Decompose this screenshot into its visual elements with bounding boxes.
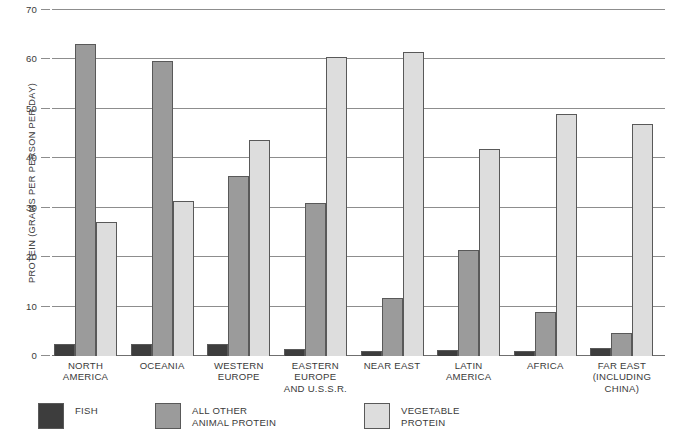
bar — [590, 348, 611, 356]
bar — [228, 176, 249, 356]
y-tick-label-20: 20 — [11, 251, 37, 262]
bar-group — [514, 10, 577, 356]
bar — [556, 114, 577, 356]
bar — [326, 57, 347, 356]
legend-label: FISH — [75, 403, 98, 417]
bar — [96, 222, 117, 356]
y-tick-mark-70 — [41, 9, 50, 10]
bar — [75, 44, 96, 356]
bar — [207, 344, 228, 356]
bar — [458, 250, 479, 356]
y-tick-mark-30 — [41, 207, 50, 208]
bar-group — [590, 10, 653, 356]
legend-swatch — [38, 403, 64, 429]
bars-layer — [52, 10, 665, 356]
bar — [131, 344, 152, 356]
y-tick-label-50: 50 — [11, 102, 37, 113]
chart-legend: FISHALL OTHERANIMAL PROTEINVEGETABLEPROT… — [38, 403, 658, 443]
y-tick-label-0: 0 — [11, 350, 37, 361]
y-tick-label-40: 40 — [11, 152, 37, 163]
plot-area: 010203040506070 — [52, 10, 665, 356]
bar — [382, 298, 403, 356]
y-tick-mark-20 — [41, 256, 50, 257]
legend-label: ALL OTHERANIMAL PROTEIN — [192, 403, 276, 428]
legend-item: FISH — [38, 403, 98, 429]
y-tick-mark-60 — [41, 58, 50, 59]
y-tick-label-60: 60 — [11, 53, 37, 64]
bar-group — [54, 10, 117, 356]
y-tick-mark-10 — [41, 306, 50, 307]
y-tick-mark-40 — [41, 157, 50, 158]
protein-sources-bar-chart: PROTEIN (GRAMS PER PERSON PER DAY) 01020… — [0, 0, 673, 448]
y-tick-label-30: 30 — [11, 201, 37, 212]
legend-item: ALL OTHERANIMAL PROTEIN — [155, 403, 276, 429]
legend-label: VEGETABLEPROTEIN — [401, 403, 460, 428]
bar — [284, 349, 305, 356]
bar — [54, 344, 75, 356]
bar — [514, 351, 535, 356]
bar — [479, 149, 500, 356]
bar-group — [437, 10, 500, 356]
legend-swatch — [364, 403, 390, 429]
legend-item: VEGETABLEPROTEIN — [364, 403, 460, 429]
legend-swatch — [155, 403, 181, 429]
bar — [535, 312, 556, 356]
category-label: FAR EAST(INCLUDINGCHINA) — [577, 360, 667, 394]
bar — [403, 52, 424, 356]
y-axis-title: PROTEIN (GRAMS PER PERSON PER DAY) — [27, 53, 37, 313]
bar — [437, 350, 458, 356]
y-tick-mark-50 — [41, 108, 50, 109]
bar-group — [207, 10, 270, 356]
bar-group — [361, 10, 424, 356]
bar — [611, 333, 632, 356]
bar — [361, 351, 382, 356]
bar — [173, 201, 194, 356]
y-tick-label-70: 70 — [11, 4, 37, 15]
y-tick-mark-0 — [41, 355, 50, 356]
bar — [152, 61, 173, 356]
bar-group — [131, 10, 194, 356]
bar — [632, 124, 653, 356]
bar-group — [284, 10, 347, 356]
bar — [249, 140, 270, 356]
y-tick-label-10: 10 — [11, 300, 37, 311]
bar — [305, 203, 326, 356]
